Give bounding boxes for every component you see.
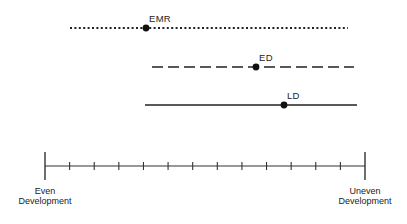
ld-label: LD: [287, 91, 300, 101]
ld-marker: [281, 102, 288, 109]
axis-right-label-line2: Development: [320, 196, 407, 206]
axis-left-label-line1: Even: [0, 186, 90, 196]
axis-right-label: Uneven Development: [320, 186, 407, 206]
ed-label: ED: [259, 53, 273, 63]
axis-right-label-line1: Uneven: [320, 186, 407, 196]
emr-marker: [143, 25, 150, 32]
axis-left-label: Even Development: [0, 186, 90, 206]
ed-marker: [253, 64, 260, 71]
emr-label: EMR: [149, 14, 171, 24]
axis-left-label-line2: Development: [0, 196, 90, 206]
